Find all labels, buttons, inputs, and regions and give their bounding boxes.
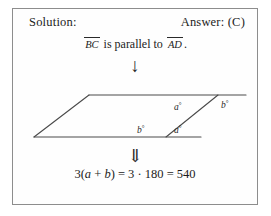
angle-label-a-top: a° (174, 101, 182, 112)
answer-label: Answer: (C) (181, 15, 245, 30)
page-root: Solution: Answer: (C) BC is parallel to … (0, 0, 271, 216)
equation-close: ) = 3 (111, 167, 135, 181)
statement-period: . (184, 37, 187, 51)
header-row: Solution: Answer: (C) (13, 15, 257, 33)
angle-label-b-bottom: b° (137, 124, 145, 135)
left-side-line (34, 95, 89, 137)
solution-frame: Solution: Answer: (C) BC is parallel to … (12, 8, 258, 205)
segment-ad-label: AD (167, 37, 183, 51)
result-equation: 3(a + b) = 3 · 180 = 540 (13, 167, 257, 182)
solution-label: Solution: (29, 15, 77, 30)
equation-coefficient: 3( (74, 167, 84, 181)
equation-value-540: 540 (177, 167, 196, 181)
equation-plus: + (91, 167, 104, 181)
equation-value-180: 180 (145, 167, 164, 181)
angle-label-a-bottom: a° (174, 124, 182, 135)
down-arrow-icon: ↓ (13, 56, 257, 75)
segment-bc-label: BC (84, 37, 99, 51)
statement-middle-text: is parallel to (101, 37, 166, 51)
equation-equals: = (164, 167, 177, 181)
parallel-statement: BC is parallel to AD. (13, 37, 257, 52)
parallelogram-svg: a° b° b° a° (13, 75, 259, 147)
double-down-arrow-icon: ⇓ (13, 147, 257, 165)
equation-dot: · (134, 167, 144, 181)
parallelogram-figure: a° b° b° a° (13, 75, 259, 147)
angle-label-b-top: b° (221, 99, 229, 110)
